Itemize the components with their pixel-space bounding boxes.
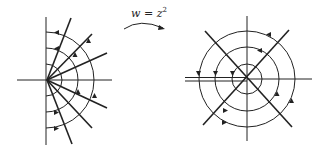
z-rays — [47, 18, 107, 144]
z-plane — [17, 17, 112, 145]
mapping-label-exponent: 2 — [162, 6, 166, 14]
conformal-map-diagram — [0, 0, 328, 151]
mapping-arrow — [124, 23, 165, 30]
mapping-label: w = z2 — [131, 6, 167, 20]
mapping-label-text: w = z — [131, 7, 162, 20]
w-plane — [185, 16, 312, 141]
